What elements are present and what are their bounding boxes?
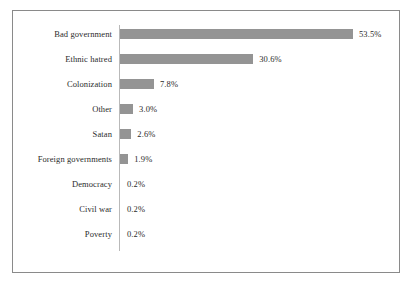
value-label: 0.2% (127, 229, 145, 239)
value-label: 2.6% (137, 129, 155, 139)
category-label: Foreign governments (38, 154, 112, 164)
bar-row: Colonization 7.8% (13, 71, 399, 96)
category-label: Other (92, 104, 112, 114)
value-label: 1.9% (134, 154, 152, 164)
bar-row: Other 3.0% (13, 96, 399, 121)
value-label: 53.5% (359, 29, 381, 39)
bar[interactable] (120, 29, 353, 39)
bar-row: Foreign governments 1.9% (13, 146, 399, 171)
bar-row: Civil war 0.2% (13, 196, 399, 221)
category-label: Democracy (72, 179, 112, 189)
value-label: 3.0% (139, 104, 157, 114)
bar-row: Satan 2.6% (13, 121, 399, 146)
bar[interactable] (120, 154, 128, 164)
category-label: Satan (93, 129, 112, 139)
value-label: 0.2% (127, 204, 145, 214)
value-label: 0.2% (127, 179, 145, 189)
bar-row: Ethnic hatred 30.6% (13, 46, 399, 71)
bar-row: Democracy 0.2% (13, 171, 399, 196)
chart-frame: Bad government 53.5% Ethnic hatred 30.6%… (12, 10, 400, 273)
value-label: 30.6% (259, 54, 281, 64)
bar[interactable] (120, 54, 253, 64)
category-label: Colonization (67, 79, 112, 89)
value-label: 7.8% (160, 79, 178, 89)
bar[interactable] (120, 129, 131, 139)
bar[interactable] (120, 104, 133, 114)
bar[interactable] (120, 79, 154, 89)
category-label: Bad government (54, 29, 112, 39)
category-label: Ethnic hatred (65, 54, 112, 64)
bar-row: Poverty 0.2% (13, 221, 399, 246)
plot-area: Bad government 53.5% Ethnic hatred 30.6%… (13, 11, 399, 272)
category-label: Poverty (85, 229, 112, 239)
bar-row: Bad government 53.5% (13, 21, 399, 46)
category-label: Civil war (79, 204, 112, 214)
